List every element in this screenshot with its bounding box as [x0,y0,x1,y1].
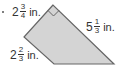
denominator: 4 [21,12,25,20]
denominator: 3 [19,55,23,63]
label-whole: 5 [86,20,93,34]
unit: in. [27,49,39,61]
denominator: 3 [95,27,99,35]
fraction: 2 3 [18,46,24,63]
label-whole: 2 [10,48,17,62]
label-left-side: 2 2 3 in. [10,46,39,63]
fraction: 3 4 [20,3,26,20]
label-whole: 2 [12,5,19,19]
fraction: 1 3 [94,18,100,35]
unit: in. [103,21,115,33]
label-right-side: 5 1 3 in. [86,18,115,35]
unit: in. [29,6,41,18]
label-top-side: 2 3 4 in. [12,3,41,20]
